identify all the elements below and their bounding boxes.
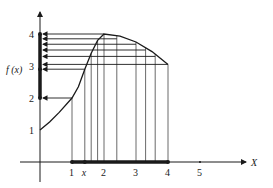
x-tick-label: 4 [165, 167, 170, 178]
y-axis-label: f (x) [6, 64, 23, 76]
tick-mark-5 [199, 161, 201, 163]
x-tick-label: 3 [133, 167, 138, 178]
x-tick-label: 1 [69, 167, 74, 178]
interval-point [38, 67, 42, 71]
axes: X [20, 12, 258, 182]
interval-point [70, 160, 74, 164]
y-tick-label: 2 [29, 93, 34, 104]
x-variable-label: x [81, 167, 87, 178]
x-axis-label: X [250, 157, 258, 168]
interval-point [38, 32, 42, 36]
interval-point [38, 96, 42, 100]
interval-point [166, 160, 170, 164]
y-tick-label: 3 [29, 61, 34, 72]
projection-lines [43, 34, 168, 162]
y-tick-label: 4 [29, 29, 34, 40]
x-tick-label: 2 [101, 167, 106, 178]
x-tick-label: 5 [197, 167, 202, 178]
y-tick-label: 1 [29, 125, 34, 136]
function-mapping-diagram: X 12345x1234f (x) [0, 0, 273, 188]
interval-point [83, 160, 87, 164]
